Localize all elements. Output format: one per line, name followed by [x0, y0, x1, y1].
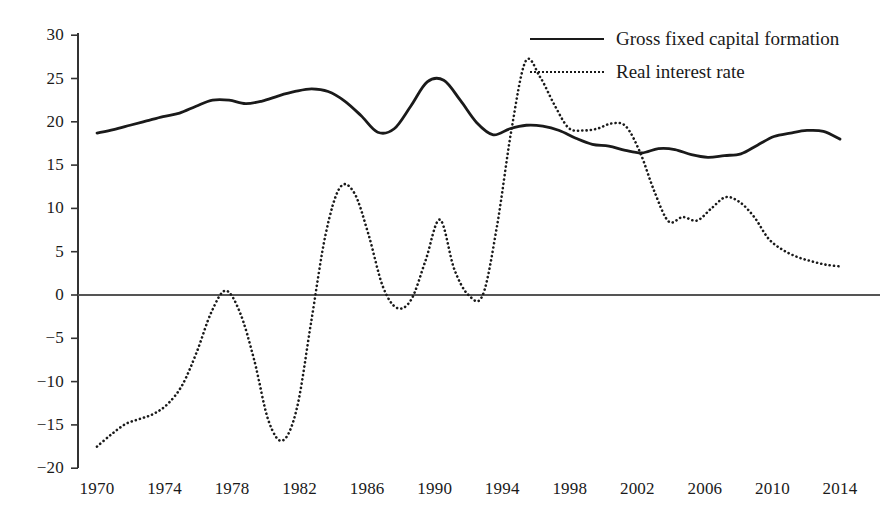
chart-legend: Gross fixed capital formation Real inter…: [530, 26, 839, 83]
x-axis-tick-label: 1998: [552, 479, 587, 499]
x-axis-tick-label: 1982: [282, 479, 317, 499]
legend-label: Real interest rate: [616, 62, 745, 81]
x-axis-tick-label: 1978: [215, 479, 250, 499]
y-axis-tick-label: 0: [55, 285, 64, 305]
y-axis-tick-label: 20: [47, 112, 64, 132]
legend-swatch-solid-line-icon: [530, 31, 604, 45]
x-axis-tick-label: 1970: [80, 479, 115, 499]
legend-swatch-dotted-line-icon: [530, 64, 604, 78]
series-line-solid: [97, 78, 840, 157]
y-axis-tick-label: −10: [37, 372, 64, 392]
y-axis-tick-label: 5: [55, 242, 64, 262]
x-axis-tick-label: 2010: [755, 479, 790, 499]
y-axis-tick-label: 30: [47, 25, 64, 45]
chart-container: −20−15−10−5051015202530 1970197419781982…: [0, 0, 894, 511]
legend-item-gross-fixed-capital-formation: Gross fixed capital formation: [530, 26, 839, 50]
y-axis-tick-label: −20: [37, 458, 64, 478]
x-axis-tick-label: 1986: [350, 479, 385, 499]
x-axis-tick-label: 2002: [620, 479, 655, 499]
axis-group: [71, 33, 880, 468]
x-axis-tick-label: 1974: [147, 479, 182, 499]
y-axis-ticks: [71, 35, 78, 468]
x-axis-tick-label: 2006: [688, 479, 723, 499]
y-axis-tick-label: −5: [46, 328, 65, 348]
x-axis-tick-label: 1990: [417, 479, 452, 499]
y-axis-tick-label: 25: [47, 69, 64, 89]
y-axis-tick-label: 15: [47, 155, 64, 175]
legend-label: Gross fixed capital formation: [616, 29, 839, 48]
x-axis-tick-label: 1994: [485, 479, 520, 499]
series-line-dotted: [97, 59, 840, 447]
x-axis-tick-label: 2014: [823, 479, 858, 499]
y-axis-tick-label: 10: [47, 198, 64, 218]
series-group: [97, 59, 840, 447]
legend-item-real-interest-rate: Real interest rate: [530, 59, 839, 83]
y-axis-tick-label: −15: [37, 415, 64, 435]
